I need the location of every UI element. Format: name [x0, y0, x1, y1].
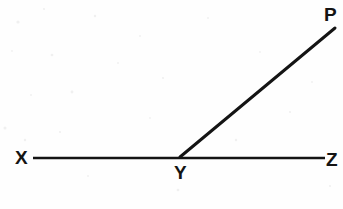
ray-segment-yp: [180, 28, 335, 157]
geometry-diagram-canvas: X Z Y P: [0, 0, 343, 209]
geometry-figure: [0, 0, 343, 209]
vertex-label-y: Y: [174, 163, 187, 182]
vertex-label-z: Z: [326, 150, 338, 169]
vertex-label-p: P: [324, 5, 337, 24]
vertex-label-x: X: [15, 148, 28, 167]
